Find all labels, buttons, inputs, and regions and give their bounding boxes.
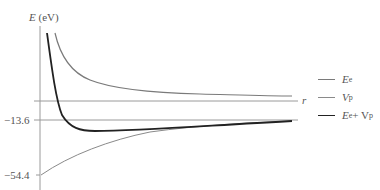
total-energy-curve [47,33,292,131]
legend-swatch-total [318,115,335,116]
y-axis-title: E (eV) [29,12,59,23]
tick-label-13-6: −13.6 [4,115,29,126]
kinetic-energy-curve [55,33,292,96]
legend-item-potential: Vp [318,88,380,106]
y-axis-symbol: E [29,11,36,23]
legend-label-plus: + V [352,109,369,121]
x-axis-symbol: r [302,94,306,106]
legend-label-sub: p [349,93,353,102]
legend-label-sub2: p [369,111,373,120]
legend-label-sub: e [349,75,353,84]
legend-item-kinetic: Ee [318,70,380,88]
legend-label-main: E [342,73,349,85]
tick-label-54-4: −54.4 [4,170,29,181]
legend-label-main: V [342,91,349,103]
y-axis-unit: (eV) [38,11,58,23]
legend-item-total: Ee + Vp [318,106,380,124]
legend-swatch-potential [318,97,335,98]
legend-swatch-kinetic [318,79,335,80]
legend-label-main: E [342,109,349,121]
x-axis-title: r [302,95,306,106]
legend: Ee Vp Ee + Vp [318,70,380,124]
